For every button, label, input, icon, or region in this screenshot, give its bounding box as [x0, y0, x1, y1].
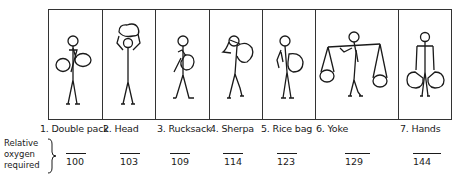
value-bar: [66, 153, 86, 154]
oxygen-value-sherpa: 114: [224, 156, 242, 167]
right-brace-icon: [46, 138, 62, 174]
oxygen-value-rice-bag: 123: [277, 156, 295, 167]
rice-bag-figure-icon: [263, 10, 315, 119]
head-carry-figure-icon: [103, 10, 155, 119]
panel-label-rice-bag: 5. Rice bag: [261, 123, 312, 134]
panel-label-rucksack: 3. Rucksack: [157, 123, 211, 134]
panel-label-hands: 7. Hands: [400, 123, 440, 134]
value-bar: [223, 153, 243, 154]
panel-label-double-pack: 1. Double pack: [40, 123, 109, 134]
hands-carry-figure-icon: [399, 10, 452, 119]
panel-label-sherpa: 4. Sherpa: [210, 123, 254, 134]
oxygen-value-double-pack: 100: [66, 156, 84, 167]
sherpa-figure-icon: [210, 10, 262, 119]
value-bar: [277, 153, 297, 154]
double-pack-figure-icon: [49, 10, 102, 119]
value-bar: [170, 153, 190, 154]
yoke-figure-icon: [316, 10, 398, 119]
relative-oxygen-label: Relative oxygen required: [4, 138, 40, 171]
oxygen-value-head: 103: [120, 156, 138, 167]
value-bar: [120, 153, 140, 154]
panel-label-yoke: 6. Yoke: [316, 123, 348, 134]
panel-label-head: 2. Head: [103, 123, 139, 134]
oxygen-value-yoke: 129: [345, 156, 363, 167]
oxygen-value-hands: 144: [413, 156, 431, 167]
value-bar: [345, 153, 370, 154]
value-bar: [413, 153, 441, 154]
rucksack-figure-icon: [156, 10, 209, 119]
oxygen-value-rucksack: 109: [171, 156, 189, 167]
